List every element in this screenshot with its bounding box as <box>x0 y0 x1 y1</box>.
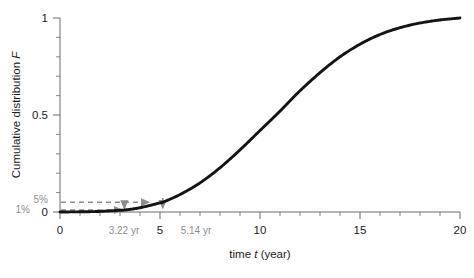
y-tick-label-0.5: 0.5 <box>32 109 48 121</box>
annotation-label-514-yr: 5.14 yr <box>181 225 212 236</box>
x-tick-label-5: 5 <box>157 224 163 236</box>
figure-cumulative-distribution: 1 0.5 0 Cumulative distribution F <box>0 0 474 278</box>
annotation-label-1-percent: 1% <box>16 204 31 215</box>
x-tick-label-10: 10 <box>254 224 267 236</box>
y-tick-label-1: 1 <box>42 12 48 24</box>
annotation-label-322-yr: 3.22 yr <box>109 225 140 236</box>
y-axis-title: Cumulative distribution F <box>10 51 22 179</box>
y-tick-label-0: 0 <box>42 206 48 218</box>
annotation-label-5-percent: 5% <box>34 194 49 205</box>
x-tick-label-15: 15 <box>354 224 367 236</box>
x-tick-label-20: 20 <box>454 224 467 236</box>
x-axis-title: time t (year) <box>229 248 291 260</box>
x-tick-label-0: 0 <box>57 224 63 236</box>
chart-background <box>0 0 474 278</box>
chart-canvas: 1 0.5 0 Cumulative distribution F <box>0 0 474 278</box>
